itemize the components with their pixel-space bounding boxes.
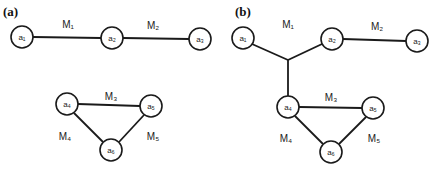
node-a3: a₃ (406, 30, 428, 52)
svg-text:a₅: a₅ (369, 104, 377, 113)
node-a4: a₄ (277, 96, 299, 118)
hypergraph-figure: (a) M₁ M₂ M₃ M₄ M₅ a₁ a₂ a₃ a₄ a₅ a₆ (b)… (0, 0, 445, 173)
svg-text:a₃: a₃ (413, 37, 421, 46)
edge-m2 (343, 39, 406, 41)
edge-label-m3: M₃ (105, 91, 117, 102)
svg-text:a₆: a₆ (107, 146, 115, 155)
edge-label-m5: M₅ (368, 133, 380, 144)
node-a5: a₅ (362, 97, 384, 119)
edge-m3 (78, 104, 140, 106)
svg-text:a₆: a₆ (327, 148, 335, 157)
panel-b: (b) M₁ M₂ M₃ M₄ M₅ a₁ a₂ a₃ a₄ a₅ a₆ (232, 4, 428, 163)
edge-m4 (74, 113, 103, 142)
edge-label-m4: M₄ (59, 131, 71, 142)
node-a6: a₆ (100, 139, 122, 161)
edge-label-m2: M₂ (147, 20, 159, 31)
node-a3: a₃ (189, 28, 211, 50)
node-a5: a₅ (140, 95, 162, 117)
svg-text:a₃: a₃ (196, 35, 204, 44)
edge-label-m5: M₅ (147, 131, 159, 142)
svg-text:a₁: a₁ (18, 33, 25, 42)
edge-m3 (299, 107, 362, 108)
edge-label-m3: M₃ (325, 92, 337, 103)
svg-text:a₂: a₂ (328, 35, 336, 44)
edge-m2 (123, 38, 189, 39)
edge-label-m4: M₄ (280, 133, 292, 144)
node-a2: a₂ (101, 27, 123, 49)
edge-m1-branch-a2 (288, 44, 322, 60)
svg-text:a₄: a₄ (284, 103, 292, 112)
panel-a: (a) M₁ M₂ M₃ M₄ M₅ a₁ a₂ a₃ a₄ a₅ a₆ (3, 4, 211, 161)
edge-label-m1: M₁ (62, 19, 74, 30)
edge-m4 (295, 116, 323, 144)
node-a1: a₁ (232, 27, 254, 49)
edge-label-m1: M₁ (282, 19, 294, 30)
panel-a-label: (a) (3, 4, 18, 19)
node-a2: a₂ (321, 28, 343, 50)
node-a4: a₄ (56, 93, 78, 115)
edge-m5 (119, 115, 144, 142)
panel-b-label: (b) (235, 4, 251, 19)
svg-text:a₂: a₂ (108, 34, 116, 43)
edge-m5 (339, 117, 366, 144)
svg-text:a₁: a₁ (239, 34, 246, 43)
node-a1: a₁ (11, 26, 33, 48)
svg-text:a₄: a₄ (63, 100, 71, 109)
edge-m1 (33, 37, 101, 38)
edge-m1-branch-a1 (252, 44, 288, 60)
svg-text:a₅: a₅ (147, 102, 155, 111)
node-a6: a₆ (320, 141, 342, 163)
edge-label-m2: M₂ (371, 21, 383, 32)
